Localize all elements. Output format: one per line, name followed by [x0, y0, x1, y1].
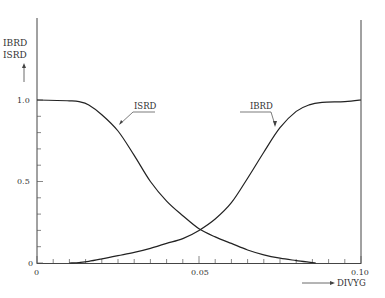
ibrd-curve — [69, 100, 361, 263]
ibrd-pointer-icon — [273, 121, 277, 127]
isrd-curve-label: ISRD — [134, 101, 157, 111]
x-axis-arrow-icon — [302, 281, 335, 285]
chart-figure: IBRD ISRD 1.0 0.5 0 0 0.05 0.10 DIVYG IS… — [0, 0, 385, 298]
x-tick-label-0: 0 — [34, 268, 39, 277]
ibrd-annotation: IBRD — [240, 101, 277, 127]
y-axis-label-ibrd: IBRD — [3, 38, 27, 48]
isrd-curve — [37, 100, 316, 263]
x-tick-label-005: 0.05 — [191, 268, 209, 277]
ibrd-curve-label: IBRD — [250, 101, 273, 111]
y-axis-arrow-icon — [22, 63, 26, 82]
y-tick-label-1: 1.0 — [17, 96, 30, 105]
isrd-pointer-icon — [119, 120, 123, 125]
x-axis-label: DIVYG — [337, 278, 366, 288]
y-tick-label-05: 0.5 — [17, 177, 30, 186]
x-tick-label-010: 0.10 — [351, 268, 369, 277]
isrd-annotation: ISRD — [119, 101, 157, 125]
y-axis-label-isrd: ISRD — [3, 50, 27, 60]
y-axis-ticks — [37, 100, 43, 263]
y-tick-label-0: 0 — [28, 259, 33, 268]
chart-svg: IBRD ISRD 1.0 0.5 0 0 0.05 0.10 DIVYG IS… — [0, 0, 385, 298]
